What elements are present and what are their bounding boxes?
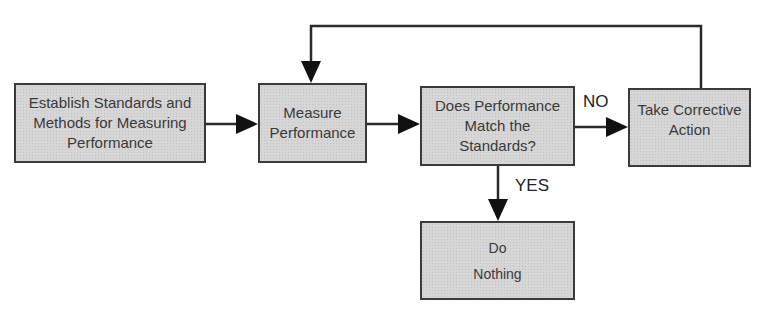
edge-label-no: NO: [583, 92, 609, 112]
arrowhead-icon: [236, 114, 258, 134]
node-label: Establish Standards and Methods for Meas…: [29, 93, 192, 153]
arrowhead-icon: [301, 61, 321, 83]
edge-label-yes: YES: [515, 176, 549, 196]
node-label: Does Performance Match the Standards?: [435, 96, 560, 156]
node-measure-performance: Measure Performance: [258, 83, 367, 163]
arrow-corrective-to-measure: [311, 26, 701, 88]
node-decision-match-standards: Does Performance Match the Standards?: [420, 86, 575, 166]
node-establish-standards: Establish Standards and Methods for Meas…: [14, 83, 206, 163]
arrowhead-icon: [398, 114, 420, 134]
node-take-corrective-action: Take Corrective Action: [628, 88, 751, 167]
node-label: Measure Performance: [270, 103, 356, 143]
arrowhead-icon: [488, 199, 508, 221]
node-do-nothing: Do Nothing: [420, 221, 575, 300]
node-label: Take Corrective Action: [637, 100, 741, 140]
node-label: Do Nothing: [473, 235, 521, 287]
arrowhead-icon: [606, 117, 628, 137]
